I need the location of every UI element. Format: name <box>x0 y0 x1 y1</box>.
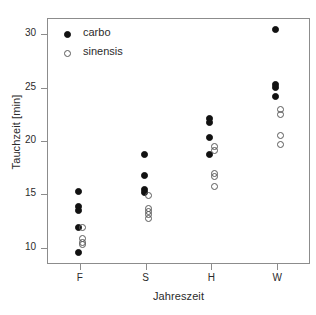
y-axis-tick: 30 <box>0 34 47 35</box>
y-axis-tick-mark <box>41 88 47 89</box>
x-axis-tick-mark <box>277 264 278 270</box>
y-axis-title: Tauchzeit [min] <box>10 42 22 222</box>
data-point-sinensis <box>211 147 218 154</box>
filled-circle-icon <box>64 31 71 38</box>
y-axis-tick-label: 25 <box>25 81 36 92</box>
x-axis-tick-mark <box>146 264 147 270</box>
y-axis-tick-label: 15 <box>25 187 36 198</box>
data-point-sinensis <box>211 173 218 180</box>
data-point-carbo <box>75 188 82 195</box>
x-axis-tick: H <box>211 264 212 284</box>
y-axis-tick: 25 <box>0 88 47 89</box>
data-point-carbo <box>141 172 148 179</box>
legend-item-carbo: carbo <box>64 25 154 44</box>
data-point-carbo <box>75 249 82 256</box>
x-axis-tick-label: W <box>257 272 297 283</box>
legend-label: carbo <box>83 26 111 38</box>
x-axis-tick-label: H <box>191 272 231 283</box>
y-axis-tick-label: 30 <box>25 27 36 38</box>
data-point-sinensis <box>145 215 152 222</box>
x-axis-tick-label: S <box>126 272 166 283</box>
data-point-sinensis <box>277 141 284 148</box>
legend: carbosinensis <box>64 25 154 63</box>
x-axis-tick-mark <box>80 264 81 270</box>
y-axis-tick-mark <box>41 34 47 35</box>
x-axis-tick: F <box>80 264 81 284</box>
y-axis-tick-mark <box>41 248 47 249</box>
data-point-sinensis <box>277 111 284 118</box>
open-circle-icon <box>64 50 71 57</box>
y-axis-tick-mark <box>41 141 47 142</box>
data-point-carbo <box>272 93 279 100</box>
x-axis-title: Jahreszeit <box>47 290 310 302</box>
legend-label: sinensis <box>83 45 123 57</box>
scatter-plot-figure: 1015202530 FSHW carbosinensis Tauchzeit … <box>0 0 316 315</box>
y-axis-tick: 10 <box>0 248 47 249</box>
data-point-carbo <box>75 207 82 214</box>
data-point-sinensis <box>277 132 284 139</box>
y-axis-tick: 20 <box>0 141 47 142</box>
x-axis-tick-label: F <box>60 272 100 283</box>
y-axis-tick-mark <box>41 194 47 195</box>
x-axis-tick: S <box>146 264 147 284</box>
y-axis-tick: 15 <box>0 194 47 195</box>
legend-item-sinensis: sinensis <box>64 44 154 63</box>
x-axis-tick: W <box>277 264 278 284</box>
x-axis-tick-mark <box>211 264 212 270</box>
y-axis-tick-label: 20 <box>25 134 36 145</box>
y-axis-tick-label: 10 <box>25 241 36 252</box>
